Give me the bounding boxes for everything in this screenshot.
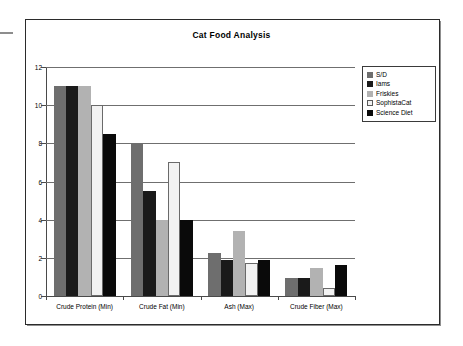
legend-item-label: Science Diet: [376, 109, 413, 117]
bar: [233, 231, 245, 296]
gridline: [46, 67, 355, 68]
legend-item-label: SophistaCat: [376, 99, 411, 107]
x-tick-mark: [355, 296, 356, 300]
bar: [323, 288, 335, 296]
bar: [168, 162, 180, 296]
y-tick-label: 0: [28, 293, 42, 300]
bar: [78, 86, 90, 296]
legend-item: SophistaCat: [367, 99, 432, 108]
chart-title: Cat Food Analysis: [0, 30, 463, 40]
bar: [310, 268, 322, 296]
x-tick-mark: [278, 296, 279, 300]
bar: [103, 134, 115, 296]
legend-swatch-icon: [367, 110, 373, 116]
x-category-label: Crude Fiber (Max): [290, 303, 343, 310]
y-tick-label: 8: [28, 140, 42, 147]
bar: [245, 263, 257, 296]
legend-item-label: S/D: [376, 71, 387, 79]
legend-swatch-icon: [367, 91, 373, 97]
bar: [143, 191, 155, 296]
y-tick-label: 12: [28, 64, 42, 71]
bar: [91, 105, 103, 296]
legend-item: Science Diet: [367, 108, 432, 117]
x-tick-mark: [123, 296, 124, 300]
bar: [285, 278, 297, 296]
y-tick-label: 2: [28, 254, 42, 261]
bar: [335, 265, 347, 296]
bar: [66, 86, 78, 296]
legend-item: Iams: [367, 80, 432, 89]
bar: [131, 143, 143, 296]
bar: [54, 86, 66, 296]
bar: [258, 260, 270, 296]
legend-swatch-icon: [367, 100, 373, 106]
x-category-label: Crude Protein (Min): [56, 303, 113, 310]
bar: [156, 220, 168, 296]
legend-swatch-icon: [367, 81, 373, 87]
chart-legend: S/DIamsFriskiesSophistaCatScience Diet: [362, 66, 436, 122]
legend-item-label: Friskies: [376, 90, 398, 98]
bar: [298, 278, 310, 296]
legend-item: S/D: [367, 70, 432, 79]
legend-swatch-icon: [367, 72, 373, 78]
bar: [180, 220, 192, 296]
bar: [208, 253, 220, 296]
x-tick-mark: [201, 296, 202, 300]
plot-area: [46, 67, 355, 296]
y-tick-label: 6: [28, 178, 42, 185]
legend-item: Friskies: [367, 89, 432, 98]
x-category-label: Ash (Max): [224, 303, 254, 310]
y-tick-label: 4: [28, 216, 42, 223]
x-category-label: Crude Fat (Min): [139, 303, 185, 310]
legend-item-label: Iams: [376, 80, 390, 88]
bar: [221, 260, 233, 296]
y-tick-label: 10: [28, 102, 42, 109]
x-tick-mark: [46, 296, 47, 300]
